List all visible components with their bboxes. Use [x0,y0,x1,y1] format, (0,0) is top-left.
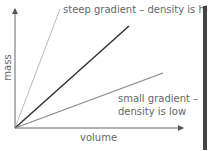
steep-line [15,9,60,128]
medium-line [15,26,129,128]
y-axis-label: mass [2,54,13,80]
steep-annotation: steep gradient – density is high [63,4,208,15]
x-axis-label: volume [80,132,117,143]
right-edge-bar [203,6,207,150]
mass-volume-graph [0,0,208,151]
shallow-annotation-line1: small gradient – [118,93,198,104]
shallow-annotation-line2: density is low [118,106,186,117]
